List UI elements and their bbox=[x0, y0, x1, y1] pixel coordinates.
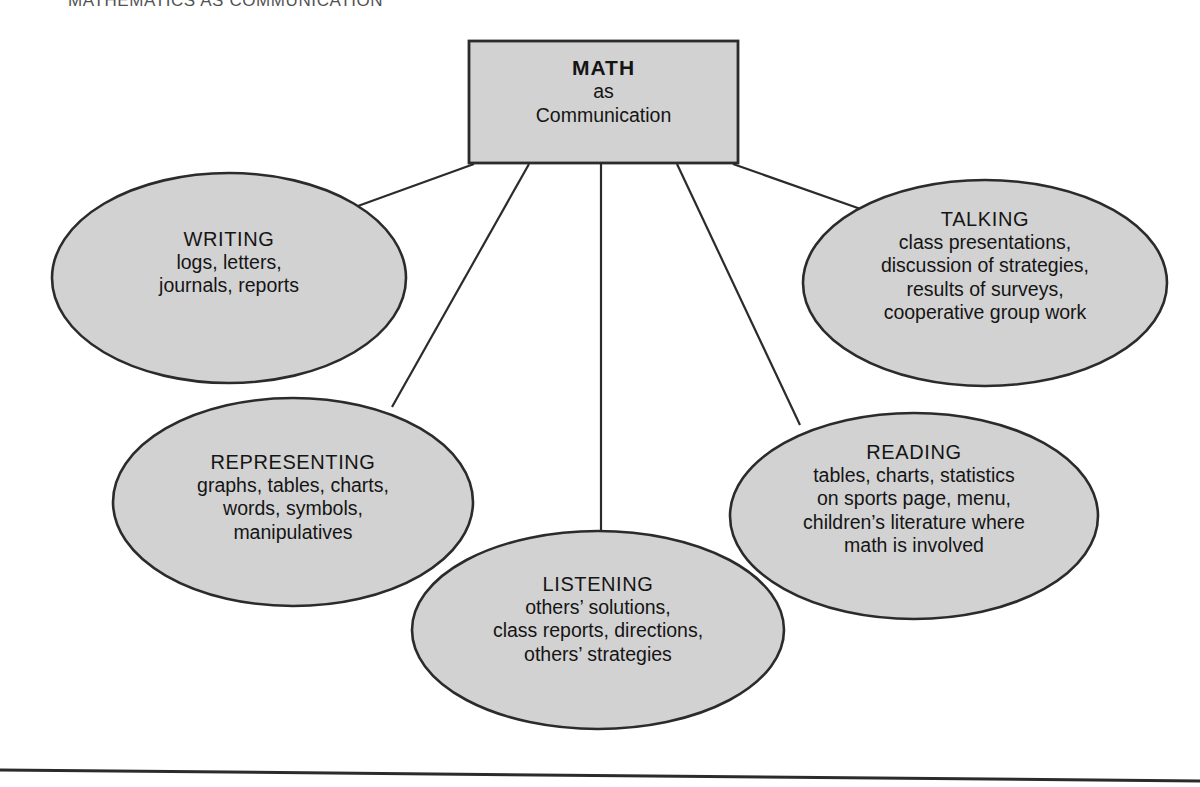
ellipse-talking[interactable] bbox=[803, 180, 1167, 386]
connector-to-representing bbox=[392, 164, 529, 407]
diagram-page: MATHEMATICS AS COMMUNICATION MATH as Com… bbox=[0, 0, 1200, 787]
concept-ellipses bbox=[52, 173, 1167, 729]
center-box[interactable] bbox=[469, 41, 738, 163]
connector-to-reading bbox=[677, 164, 800, 425]
ellipse-representing[interactable] bbox=[113, 398, 473, 606]
connector-to-talking bbox=[733, 164, 872, 213]
ellipse-reading[interactable] bbox=[730, 413, 1098, 619]
ellipse-writing[interactable] bbox=[52, 173, 406, 383]
ellipse-listening[interactable] bbox=[412, 531, 784, 729]
bottom-rule bbox=[0, 770, 1200, 781]
concept-map-canvas bbox=[0, 0, 1200, 787]
